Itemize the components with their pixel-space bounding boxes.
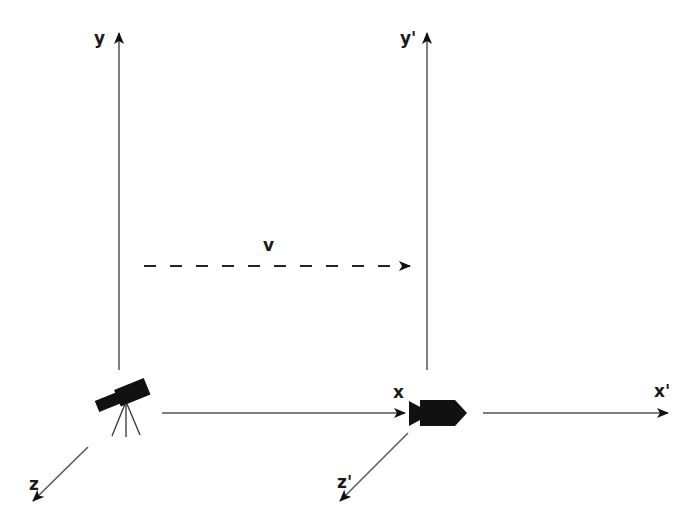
y-axis-label: y (94, 30, 105, 47)
x-prime-axis-label: x' (654, 383, 670, 400)
z-axis-label: z (29, 476, 39, 493)
rocket-icon (409, 400, 467, 426)
telescope-icon (94, 378, 151, 437)
z-prime-axis-label: z' (337, 474, 352, 491)
reference-frames-diagram (0, 0, 687, 531)
x-axis-label: x (393, 384, 404, 401)
z-axis (33, 447, 88, 501)
velocity-label: v (263, 237, 274, 254)
y-prime-axis-label: y' (400, 30, 416, 47)
